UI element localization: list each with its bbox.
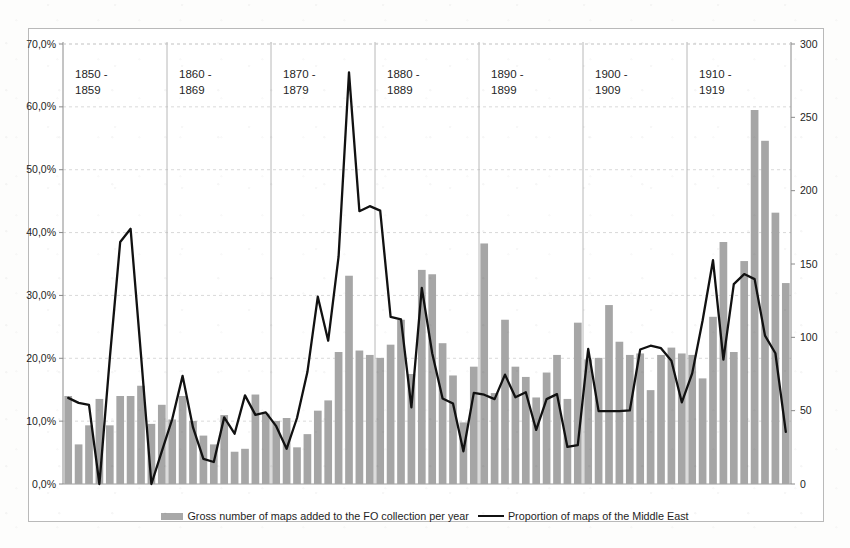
y-right-tick-label: 300: [800, 38, 818, 50]
chart-plot-wrapper: 0,0%10,0%20,0%30,0%40,0%50,0%60,0%70,0%0…: [0, 0, 850, 548]
y-left-tick-label: 40,0%: [26, 226, 56, 238]
decade-label-line2: 1879: [283, 84, 309, 96]
bar: [262, 414, 270, 484]
bar: [106, 425, 114, 484]
legend-bar-swatch-icon: [161, 513, 183, 520]
decade-label-line2: 1899: [491, 84, 517, 96]
bar: [709, 317, 717, 484]
bar: [324, 400, 332, 484]
bar: [127, 396, 135, 484]
bar: [376, 358, 384, 484]
bar: [345, 276, 353, 484]
decade-label-line1: 1900 -: [595, 68, 628, 80]
bar: [314, 411, 322, 484]
decade-label-line2: 1889: [387, 84, 413, 96]
y-axis-right: 050100150200250300: [791, 38, 818, 490]
y-left-tick-label: 60,0%: [26, 100, 56, 112]
bar: [730, 352, 738, 484]
y-right-tick-label: 50: [800, 404, 812, 416]
bar: [595, 358, 603, 484]
bar: [116, 396, 124, 484]
legend-item-bar: Gross number of maps added to the FO col…: [161, 510, 468, 522]
bar: [75, 444, 83, 484]
y-left-tick-label: 70,0%: [26, 38, 56, 50]
bar: [512, 367, 520, 484]
bar: [553, 355, 561, 484]
bar: [678, 353, 686, 484]
decade-label-line2: 1869: [179, 84, 205, 96]
bar: [356, 351, 364, 484]
bar: [699, 378, 707, 484]
bar: [647, 390, 655, 484]
legend-line-label: Proportion of maps of the Middle East: [508, 510, 689, 522]
bar: [761, 141, 769, 484]
y-right-tick-label: 0: [800, 478, 806, 490]
y-right-tick-label: 150: [800, 258, 818, 270]
bar: [449, 375, 457, 484]
bar: [470, 367, 478, 484]
bar: [283, 418, 291, 484]
bar: [64, 396, 72, 484]
bar: [740, 261, 748, 484]
bar: [293, 447, 301, 484]
legend-line-swatch-icon: [478, 515, 504, 517]
decade-label-line1: 1860 -: [179, 68, 212, 80]
decade-label-line2: 1909: [595, 84, 621, 96]
decade-label-line1: 1890 -: [491, 68, 524, 80]
chart-figure: 0,0%10,0%20,0%30,0%40,0%50,0%60,0%70,0%0…: [0, 0, 850, 548]
y-left-tick-label: 10,0%: [26, 415, 56, 427]
bar: [616, 342, 624, 484]
y-right-tick-label: 250: [800, 111, 818, 123]
decade-label-line2: 1859: [75, 84, 101, 96]
y-left-tick-label: 20,0%: [26, 352, 56, 364]
bar: [366, 355, 374, 484]
bar: [241, 449, 249, 484]
decade-label-line1: 1870 -: [283, 68, 316, 80]
bar: [304, 434, 312, 484]
legend-bar-label: Gross number of maps added to the FO col…: [187, 510, 468, 522]
decade-label-line2: 1919: [699, 84, 725, 96]
y-left-tick-label: 0,0%: [32, 478, 56, 490]
chart-legend: Gross number of maps added to the FO col…: [0, 510, 850, 522]
legend-item-line: Proportion of maps of the Middle East: [478, 510, 689, 522]
bar: [657, 355, 665, 484]
y-right-tick-label: 100: [800, 331, 818, 343]
bar: [501, 320, 509, 484]
bar: [782, 283, 790, 484]
bar: [720, 242, 728, 484]
bar: [231, 452, 239, 484]
bar: [387, 345, 395, 484]
decade-label-line1: 1880 -: [387, 68, 420, 80]
bar: [480, 243, 488, 484]
bar: [636, 353, 644, 484]
bar: [179, 396, 187, 484]
bar-series: [64, 110, 789, 484]
bar: [335, 352, 343, 484]
y-axis-left: 0,0%10,0%20,0%30,0%40,0%50,0%60,0%70,0%: [26, 38, 63, 490]
decade-label-line1: 1850 -: [75, 68, 108, 80]
bar: [543, 373, 551, 484]
bar: [439, 343, 447, 484]
decade-label-line1: 1910 -: [699, 68, 732, 80]
y-right-tick-label: 200: [800, 184, 818, 196]
bar: [532, 397, 540, 484]
bar: [491, 393, 499, 484]
y-left-tick-label: 30,0%: [26, 289, 56, 301]
chart-canvas: 0,0%10,0%20,0%30,0%40,0%50,0%60,0%70,0%0…: [0, 0, 850, 548]
bar: [574, 323, 582, 484]
y-left-tick-label: 50,0%: [26, 163, 56, 175]
bar: [605, 305, 613, 484]
bar: [428, 274, 436, 484]
bar: [626, 355, 634, 484]
